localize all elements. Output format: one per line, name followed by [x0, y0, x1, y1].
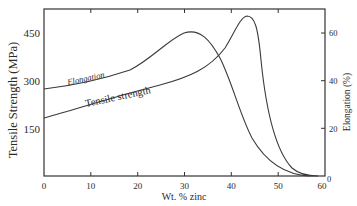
y2-tick-20: 20	[329, 124, 338, 134]
y2-tick-0: 0	[327, 174, 331, 184]
y-tick-300: 300	[24, 75, 41, 87]
x-axis-label: Wt. % zinc	[162, 191, 207, 202]
x-tick-0: 0	[42, 181, 47, 191]
tensile-strength-curve	[44, 16, 318, 176]
elongation-curve	[44, 32, 310, 176]
chart: 0 10 20 30 40 50 60 Wt. % zinc 450 300 1…	[0, 0, 357, 206]
y2-axis-label: Elongation (%)	[342, 73, 353, 131]
x-tick-60: 60	[318, 181, 328, 191]
x-tick-10: 10	[86, 181, 96, 191]
elongation-annotation: Elongation	[65, 69, 105, 87]
y-axis-label: Tensile Strength (MPa)	[6, 42, 20, 158]
y2-tick-60: 60	[329, 28, 338, 38]
y-tick-450: 450	[24, 27, 41, 39]
x-tick-labels: 0 10 20 30 40 50 60	[42, 181, 327, 191]
x-tick-40: 40	[227, 181, 237, 191]
y-tick-labels: 450 300 150	[24, 27, 41, 135]
y-tick-150: 150	[24, 123, 41, 135]
x-tick-50: 50	[274, 181, 284, 191]
tensile-strength-annotation: Tensile strength	[84, 84, 152, 109]
y2-tick-40: 40	[329, 76, 338, 86]
plot-frame	[44, 9, 325, 176]
x-tick-30: 30	[180, 181, 190, 191]
x-tick-20: 20	[133, 181, 143, 191]
y2-tick-labels: 0 20 40 60	[327, 28, 338, 184]
